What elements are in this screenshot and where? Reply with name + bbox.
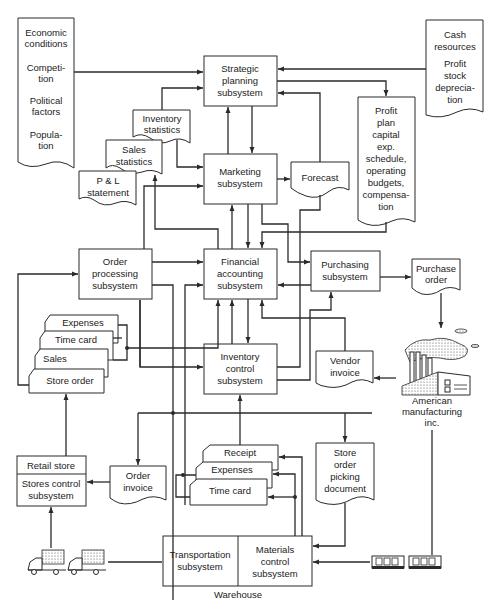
doc-label: Profit xyxy=(375,105,398,116)
doc-label: Forecast xyxy=(302,172,339,183)
node-label: Strategic xyxy=(221,63,259,74)
card-label: Expenses xyxy=(62,317,104,328)
node-label: subsystem xyxy=(217,87,262,98)
node-label: subsystem xyxy=(322,271,367,282)
external-factors-document: Economic conditions Competi- tion Politi… xyxy=(18,18,74,168)
purchasing-subsystem: Purchasing subsystem xyxy=(311,251,380,291)
node-label: processing xyxy=(92,268,138,279)
warehouse: Transportation subsystem Materials contr… xyxy=(163,536,312,600)
node-label: Inventory xyxy=(220,351,259,362)
node-label: accounting xyxy=(217,268,263,279)
doc-label: operating xyxy=(366,165,406,176)
store-card-stack: Expenses Time card Sales Store order xyxy=(29,315,118,393)
doc-line: stock xyxy=(444,70,466,81)
doc-line: factors xyxy=(32,106,61,117)
card-label: Sales xyxy=(43,353,67,364)
entity-label: American xyxy=(412,395,452,406)
warehouse-card-stack: Receipt Expenses Time card xyxy=(190,445,278,505)
doc-line: Competi- xyxy=(27,62,66,73)
inventory-control-subsystem: Inventory control subsystem xyxy=(204,344,277,394)
transportation-label: subsystem xyxy=(177,561,222,572)
financial-accounting-subsystem: Financial accounting subsystem xyxy=(204,249,277,299)
doc-line: Political xyxy=(30,95,63,106)
strategic-planning-subsystem: Strategic planning subsystem xyxy=(204,56,277,106)
financial-resources-document: Cash resources Profit stock deprecia- ti… xyxy=(426,20,483,117)
doc-label: Order xyxy=(126,470,150,481)
factory-icon xyxy=(402,329,479,395)
doc-label: compensa- xyxy=(363,189,410,200)
node-label: Stores control xyxy=(22,478,81,489)
store-order-picking-document: Store order picking document xyxy=(316,443,374,504)
doc-label: Store xyxy=(334,447,357,458)
materials-label: subsystem xyxy=(252,568,297,579)
card-label: Store order xyxy=(46,375,94,386)
doc-label: statement xyxy=(87,187,129,198)
doc-line: tion xyxy=(447,94,462,105)
card-label: Expenses xyxy=(211,464,253,475)
doc-label: tion xyxy=(378,201,393,212)
node-label: planning xyxy=(222,75,258,86)
doc-label: order xyxy=(334,459,356,470)
doc-line: deprecia- xyxy=(435,82,475,93)
warehouse-label: Warehouse xyxy=(214,589,262,600)
profit-plan-document: Profit plan capital exp. schedule, opera… xyxy=(358,97,415,225)
flow-diagram: Economic conditions Competi- tion Politi… xyxy=(0,0,498,615)
doc-line: Popula- xyxy=(30,129,63,140)
card-label: Receipt xyxy=(224,447,257,458)
node-label: subsystem xyxy=(217,178,262,189)
stores-control-subsystem: Retail store Stores control subsystem xyxy=(17,456,86,506)
doc-label: statistics xyxy=(116,156,153,167)
node-header: Retail store xyxy=(27,460,75,471)
doc-label: document xyxy=(324,483,366,494)
doc-label: P & L xyxy=(96,175,119,186)
doc-line: Cash xyxy=(444,29,466,40)
card-label: Time card xyxy=(209,485,251,496)
entity-label: inc. xyxy=(425,417,440,428)
doc-label: Sales xyxy=(122,144,146,155)
node-label: subsystem xyxy=(217,375,262,386)
sales-statistics-document: Sales statistics xyxy=(106,140,162,174)
node-label: Purchasing xyxy=(321,259,369,270)
doc-label: Inventory xyxy=(142,113,181,124)
doc-label: schedule, xyxy=(366,153,407,164)
materials-label: Materials xyxy=(256,544,295,555)
node-label: control xyxy=(226,363,255,374)
node-label: subsystem xyxy=(92,280,137,291)
node-label: subsystem xyxy=(217,280,262,291)
entity-label: manufacturing xyxy=(402,406,462,417)
doc-label: invoice xyxy=(123,482,153,493)
doc-label: budgets, xyxy=(368,177,404,188)
materials-label: control xyxy=(261,556,290,567)
order-invoice-document: Order invoice xyxy=(110,466,166,504)
doc-label: capital xyxy=(372,129,399,140)
pl-statement-document: P & L statement xyxy=(79,171,136,205)
doc-label: plan xyxy=(377,117,395,128)
doc-line: Economic xyxy=(25,27,67,38)
doc-line: conditions xyxy=(25,38,68,49)
doc-line: tion xyxy=(38,73,53,84)
card-label: Time card xyxy=(55,334,97,345)
doc-label: order xyxy=(425,274,447,285)
forecast-document: Forecast xyxy=(291,162,349,197)
doc-label: Purchase xyxy=(416,263,456,274)
doc-label: statistics xyxy=(144,124,181,135)
railcar-icon xyxy=(372,556,441,569)
doc-label: Vendor xyxy=(330,355,360,366)
node-label: Financial xyxy=(221,256,259,267)
doc-line: tion xyxy=(38,140,53,151)
doc-line: resources xyxy=(434,41,476,52)
doc-label: picking xyxy=(330,471,360,482)
order-processing-subsystem: Order processing subsystem xyxy=(79,249,152,299)
purchase-order-document: Purchase order xyxy=(412,259,460,295)
node-label: Marketing xyxy=(219,166,261,177)
inventory-statistics-document: Inventory statistics xyxy=(133,110,190,143)
doc-label: invoice xyxy=(330,367,360,378)
truck-icon xyxy=(28,550,106,575)
vendor-invoice-document: Vendor invoice xyxy=(316,351,373,387)
doc-line: Profit xyxy=(444,58,467,69)
node-label: subsystem xyxy=(28,490,73,501)
doc-label: exp. xyxy=(377,141,395,152)
node-label: Order xyxy=(103,256,127,267)
transportation-label: Transportation xyxy=(170,549,231,560)
manufacturer-label: American manufacturing inc. xyxy=(402,395,462,428)
